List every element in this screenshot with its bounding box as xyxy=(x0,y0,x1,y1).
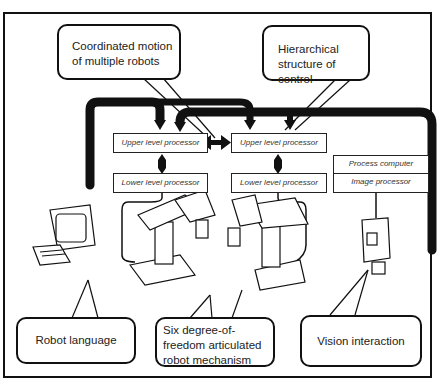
callout-text: Robot language xyxy=(35,334,116,346)
callout-coordinated-motion: Coordinated motion of multiple robots xyxy=(57,24,181,80)
robot-arm-right xyxy=(228,195,308,290)
callout-text: Hierarchical structure of control xyxy=(278,43,339,85)
left-upper-processor: Upper level processor xyxy=(113,133,208,153)
callout-hierarchical-control: Hierarchical structure of control xyxy=(262,25,370,81)
callout-text: Six degree-of-freedom articulated robot … xyxy=(163,324,261,366)
callout-six-dof: Six degree-of-freedom articulated robot … xyxy=(155,317,275,367)
camera-illustration xyxy=(362,218,390,274)
callout-robot-language: Robot language xyxy=(16,317,136,364)
callout-text: Coordinated motion of multiple robots xyxy=(72,40,172,67)
vertical-connectors xyxy=(158,154,282,174)
callout-text: Vision interaction xyxy=(317,335,404,347)
callout-vision-interaction: Vision interaction xyxy=(300,315,422,367)
image-processor: Image processor xyxy=(333,173,429,193)
right-upper-processor: Upper level processor xyxy=(231,133,327,153)
terminal-illustration xyxy=(33,205,95,265)
process-computer: Process computer xyxy=(333,155,429,174)
left-lower-processor: Lower level processor xyxy=(113,173,208,193)
arrow-heads xyxy=(154,120,296,132)
right-lower-processor: Lower level processor xyxy=(231,173,327,193)
robot-arm-left xyxy=(130,190,215,285)
